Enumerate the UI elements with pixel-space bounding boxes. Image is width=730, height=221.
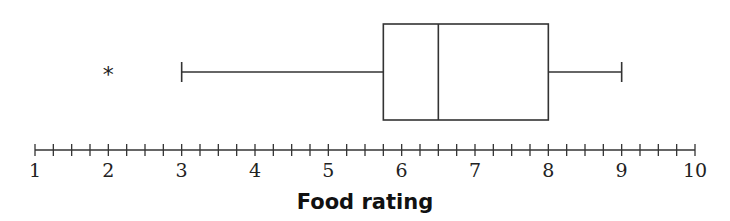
iqr-box <box>383 24 548 120</box>
tick-label: 5 <box>322 159 334 181</box>
outlier-marker: * <box>103 62 114 87</box>
tick-label: 2 <box>102 159 114 181</box>
tick-label: 7 <box>469 159 481 181</box>
tick-label: 3 <box>176 159 188 181</box>
x-axis-title: Food rating <box>297 190 433 214</box>
tick-label: 10 <box>683 159 707 181</box>
box-plot: * <box>103 24 622 120</box>
x-axis: 12345678910 <box>29 144 707 181</box>
tick-label: 4 <box>249 159 261 181</box>
tick-label: 9 <box>616 159 628 181</box>
tick-label: 6 <box>396 159 408 181</box>
box-plot-chart: * 12345678910 Food rating <box>0 0 730 221</box>
tick-label: 1 <box>29 159 41 181</box>
tick-label: 8 <box>542 159 554 181</box>
